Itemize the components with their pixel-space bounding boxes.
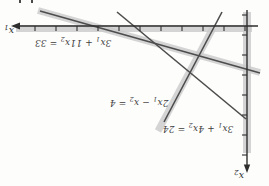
label-subscript: 2 [60,35,64,43]
label-subscript: 2 [234,168,238,176]
label-text: 2x [157,98,168,108]
label-equation-3x1-4x2-24: 3x1 + 4x2 = 24 [163,124,234,134]
cropped-text-artifact [19,0,33,3]
lp-constraint-graph: 3x1 + 11x2 = 33 2x1 − x2 = 4 3x1 + 4x2 =… [0,0,269,186]
label-subscript: 2 [188,121,192,129]
label-equation-2x1-x2-4: 2x1 − x2 = 4 [110,98,169,108]
label-subscript: 1 [218,121,222,129]
label-text: = 33 [35,38,61,48]
label-text: x [9,26,14,37]
label-text: 3x [222,124,233,134]
label-subscript: 2 [129,95,133,103]
label-text: = 24 [163,124,189,134]
label-text: = 4 [110,98,130,108]
label-text: + 11x [65,38,96,48]
x2-axis-arrow-icon [244,165,250,174]
x2-axis-label: x2 [234,171,244,182]
label-subscript: 1 [153,95,157,103]
plot-area [0,0,269,186]
label-equation-3x1-11x2-33: 3x1 + 11x2 = 33 [35,38,112,48]
label-text: x [239,171,244,182]
label-subscript: 1 [96,35,100,43]
label-subscript: 1 [4,23,8,31]
label-text: 3x [100,38,111,48]
label-text: + 4x [193,124,218,134]
x1-axis-label: x1 [4,26,14,37]
label-text: − x [134,98,153,108]
